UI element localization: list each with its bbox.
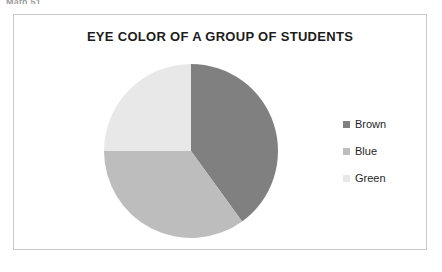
legend-label-blue: Blue: [355, 145, 377, 158]
legend-swatch-brown-icon: [343, 121, 350, 128]
legend-swatch-green-icon: [343, 175, 350, 182]
pie-chart-svg: [14, 49, 354, 247]
page-header-fragment: Math 51: [6, 0, 41, 4]
legend-item-blue[interactable]: Blue: [343, 145, 417, 158]
chart-frame: EYE COLOR OF A GROUP OF STUDENTS Brown B…: [13, 14, 427, 250]
legend-label-green: Green: [355, 172, 386, 185]
legend-label-brown: Brown: [355, 118, 386, 131]
pie-chart-plot-area: [14, 49, 354, 247]
chart-title: EYE COLOR OF A GROUP OF STUDENTS: [14, 29, 426, 44]
legend-item-green[interactable]: Green: [343, 172, 417, 185]
chart-legend: Brown Blue Green: [343, 118, 417, 185]
legend-swatch-blue-icon: [343, 148, 350, 155]
legend-item-brown[interactable]: Brown: [343, 118, 417, 131]
pie-slice-group: [104, 64, 278, 238]
pie-slice-green[interactable]: [104, 64, 191, 151]
